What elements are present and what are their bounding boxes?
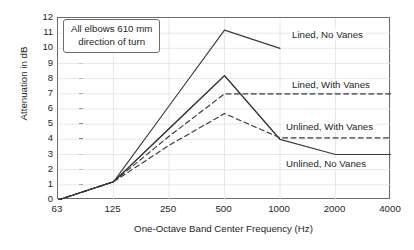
- y-tick-label: 7: [33, 88, 53, 98]
- x-tick-label: 500: [201, 203, 247, 214]
- y-tick-label: 9: [33, 58, 53, 68]
- y-axis-title: Attenuation in dB: [18, 9, 29, 159]
- y-tick-label: 6: [33, 103, 53, 113]
- annotation-box: All elbows 610 mm direction of turn: [63, 19, 160, 53]
- x-tick-label: 1000: [256, 203, 302, 214]
- x-tick-label: 2000: [312, 203, 358, 214]
- curve-label: Lined, No Vanes: [290, 29, 365, 40]
- annotation-line-2: direction of turn: [71, 36, 152, 49]
- y-tick-label: 8: [33, 73, 53, 83]
- curve-label: Lined, With Vanes: [290, 79, 372, 90]
- x-tick-label: 4000: [367, 203, 413, 214]
- curve-label: Unlined, With Vanes: [284, 121, 375, 132]
- y-tick-label: 12: [33, 12, 53, 22]
- y-tick-label: 3: [33, 149, 53, 159]
- curve-label: Unlined, No Vanes: [284, 158, 368, 169]
- y-tick-label: 5: [33, 118, 53, 128]
- y-tick-label: 10: [33, 42, 53, 52]
- y-tick-label: 2: [33, 164, 53, 174]
- y-tick-label: 4: [33, 133, 53, 143]
- x-tick-label: 63: [34, 203, 80, 214]
- x-axis-title: One-Octave Band Center Frequency (Hz): [57, 223, 390, 234]
- y-tick-label: 1: [33, 179, 53, 189]
- y-tick-label: 11: [33, 27, 53, 37]
- attenuation-chart: Attenuation in dB 0123456789101112 63125…: [0, 0, 414, 250]
- x-tick-label: 250: [145, 203, 191, 214]
- annotation-line-1: All elbows 610 mm: [71, 23, 152, 36]
- x-tick-label: 125: [90, 203, 136, 214]
